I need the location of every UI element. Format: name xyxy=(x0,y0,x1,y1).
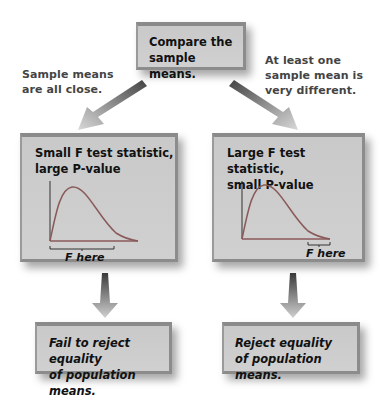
fail-to-reject-box: Fail to reject equality of population me… xyxy=(35,322,172,374)
right-branch-note: At least one sample mean is very differe… xyxy=(265,53,363,98)
f-here-label-right: F here xyxy=(306,247,346,260)
reject-text: Reject equality of population means. xyxy=(235,335,357,383)
compare-means-box: Compare the sample means. xyxy=(136,22,246,70)
f-distribution-chart-left xyxy=(20,133,178,262)
arrow-down-left-icon xyxy=(92,273,118,318)
compare-means-text: Compare the sample means. xyxy=(149,34,243,82)
reject-box: Reject equality of population means. xyxy=(222,322,360,374)
left-branch-note: Sample means are all close. xyxy=(22,67,114,97)
f-here-label-left: F here xyxy=(65,251,105,264)
f-distribution-chart-right xyxy=(212,133,365,262)
large-f-panel: Large F test statistic, small P-value F … xyxy=(212,133,365,262)
fail-to-reject-text: Fail to reject equality of population me… xyxy=(49,335,169,399)
small-f-panel: Small F test statistic, large P-value F … xyxy=(20,133,178,262)
arrow-down-right-icon xyxy=(280,273,306,318)
